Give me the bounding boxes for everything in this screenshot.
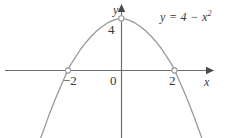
y-tick-label-4: 4: [108, 23, 115, 36]
x-tick-label-2: 2: [169, 74, 176, 87]
y-axis-label: y: [113, 4, 118, 16]
origin-label-0: 0: [110, 74, 117, 87]
equation-base: y = 4 − x: [160, 10, 208, 24]
parabola-figure: y x 4 0 −2 2 y = 4 − x2: [0, 0, 232, 138]
y-axis-arrow-icon: [118, 4, 126, 12]
equation-annotation: y = 4 − x2: [160, 11, 212, 23]
equation-exponent: 2: [208, 9, 212, 18]
x-axis-arrow-icon: [206, 67, 214, 75]
x-tick-label-neg2: −2: [63, 74, 77, 87]
x-axis-label: x: [204, 76, 209, 88]
vertex-marker: [119, 16, 124, 21]
